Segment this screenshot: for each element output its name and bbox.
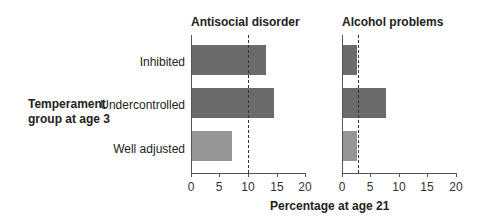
bar-inhibited: [343, 45, 357, 75]
tick: [427, 173, 428, 177]
chart-title-antisocial: Antisocial disorder: [191, 15, 300, 29]
bar-well-adjusted: [343, 131, 357, 161]
tick: [277, 173, 278, 177]
tick: [248, 173, 249, 177]
category-label-undercontrolled: Undercontrolled: [25, 98, 185, 112]
y-axis-title-line2: group at age 3: [28, 112, 110, 127]
tick-label: 15: [267, 180, 287, 194]
reference-line: [248, 35, 249, 173]
x-axis-title: Percentage at age 21: [270, 199, 389, 213]
tick-label: 0: [181, 180, 201, 194]
chart-title-alcohol: Alcohol problems: [342, 15, 443, 29]
tick: [342, 173, 343, 177]
tick-label: 5: [360, 180, 380, 194]
tick: [219, 173, 220, 177]
bar-undercontrolled: [343, 88, 386, 118]
tick: [305, 173, 306, 177]
tick: [399, 173, 400, 177]
tick: [456, 173, 457, 177]
tick-label: 20: [295, 180, 315, 194]
tick-label: 20: [446, 180, 466, 194]
tick: [370, 173, 371, 177]
category-label-inhibited: Inhibited: [25, 55, 185, 69]
tick-label: 0: [332, 180, 352, 194]
reference-line: [358, 35, 359, 173]
tick-label: 15: [417, 180, 437, 194]
category-label-well-adjusted: Well adjusted: [25, 142, 185, 156]
tick-label: 10: [389, 180, 409, 194]
bar-undercontrolled: [192, 88, 274, 118]
bar-inhibited: [192, 45, 266, 75]
tick-label: 5: [209, 180, 229, 194]
bar-well-adjusted: [192, 131, 232, 161]
tick: [191, 173, 192, 177]
tick-label: 10: [238, 180, 258, 194]
